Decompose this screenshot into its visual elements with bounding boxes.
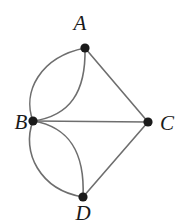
graph-edge-b-a-inner <box>33 48 85 121</box>
graph-vertex-a <box>80 43 89 52</box>
graph-figure: ABCD <box>0 0 185 221</box>
graph-edge-a-c <box>85 48 148 122</box>
graph-vertex-b <box>28 116 37 125</box>
graph-edge-b-d-inner <box>33 121 83 197</box>
vertex-label-c: C <box>160 111 175 135</box>
graph-edge-b-d-outer <box>29 121 83 197</box>
graph-vertex-c <box>143 117 152 126</box>
graph-edge-b-a-outer <box>30 48 85 121</box>
vertex-label-a: A <box>72 11 87 35</box>
edges-layer <box>29 48 148 197</box>
labels-layer: ABCD <box>15 11 175 221</box>
vertex-label-b: B <box>15 110 28 134</box>
vertex-label-d: D <box>74 201 90 221</box>
graph-canvas: ABCD <box>0 0 185 221</box>
graph-edge-d-c <box>83 122 148 197</box>
graph-edge-b-c <box>33 121 148 122</box>
